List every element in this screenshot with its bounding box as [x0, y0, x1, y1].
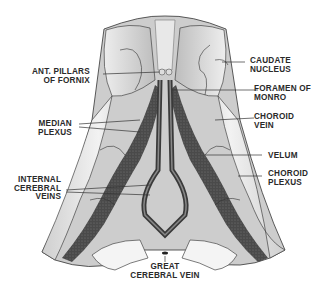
anatomical-illustration [0, 0, 329, 289]
label-median-plexus: MEDIAN PLEXUS [38, 120, 72, 137]
label-internal-cerebral-veins: INTERNAL CEREBRAL VEINS [14, 176, 61, 202]
label-line: NUCLEUS [250, 66, 291, 75]
label-foramen-of-monro: FORAMEN OF MONRO [254, 85, 311, 102]
label-line: MONRO [254, 94, 311, 103]
label-line: VELUM [268, 152, 298, 161]
great-cerebral-vein-mark [162, 252, 168, 255]
label-caudate-nucleus: CAUDATE NUCLEUS [250, 57, 291, 74]
label-choroid-plexus: CHOROID PLEXUS [268, 170, 308, 187]
label-great-cerebral-vein: GREAT CEREBRAL VEIN [125, 263, 205, 280]
label-choroid-vein: CHOROID VEIN [254, 113, 294, 130]
label-line: VEIN [254, 122, 294, 131]
label-velum: VELUM [268, 152, 298, 161]
label-line: VEINS [14, 193, 61, 202]
label-line: CEREBRAL VEIN [125, 272, 205, 281]
label-line: PLEXUS [38, 129, 72, 138]
label-ant-pillars-of-fornix: ANT. PILLARS OF FORNIX [32, 68, 90, 85]
label-line: PLEXUS [268, 179, 308, 188]
label-line: OF FORNIX [32, 77, 90, 86]
ant-pillar-right [166, 69, 172, 75]
fornix-column [155, 20, 175, 70]
